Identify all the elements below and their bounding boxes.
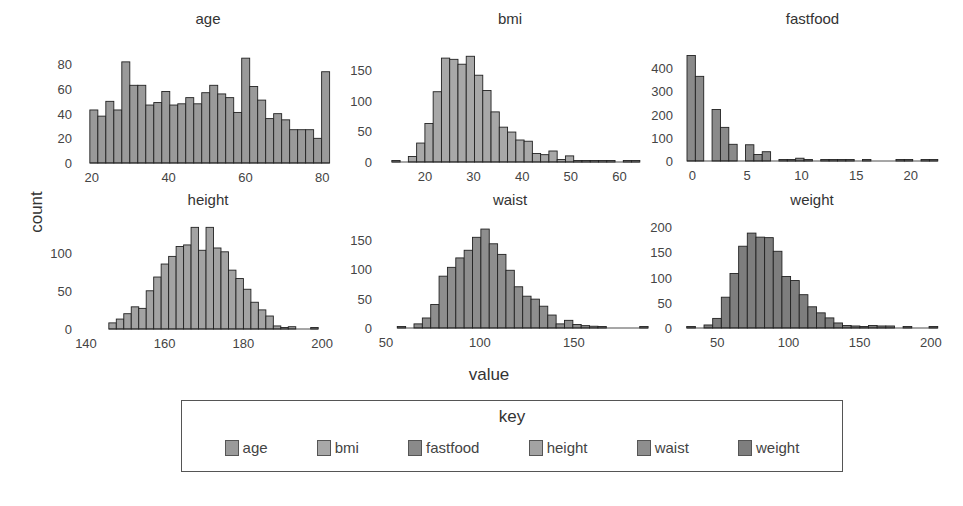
histogram-bar xyxy=(549,151,557,162)
histogram-bar xyxy=(226,98,234,163)
y-tick-label: 100 xyxy=(651,131,673,146)
histogram-bar xyxy=(146,105,154,163)
histogram-bar xyxy=(250,87,258,163)
panel-waist: waist05010015050100150 xyxy=(350,191,648,350)
histogram-bar xyxy=(154,103,162,163)
panel-title: bmi xyxy=(498,10,522,27)
histogram-bar xyxy=(746,145,754,161)
histogram-bar xyxy=(799,295,808,328)
histogram-bar xyxy=(202,93,210,163)
legend-item-height: height xyxy=(529,439,588,456)
histogram-bar xyxy=(483,91,491,163)
panel-title: waist xyxy=(492,191,528,208)
histogram-bar xyxy=(266,316,273,329)
histogram-bar xyxy=(713,318,722,328)
x-tick-label: 40 xyxy=(515,169,529,184)
histogram-bar xyxy=(782,277,791,328)
histogram-bar xyxy=(199,250,206,329)
panel-weight: weight05010015020050100150200 xyxy=(650,191,941,350)
x-axis-label: value xyxy=(469,365,510,384)
x-tick-label: 50 xyxy=(564,169,578,184)
histogram-bar xyxy=(130,85,138,163)
x-tick-label: 20 xyxy=(418,169,432,184)
histogram-bar xyxy=(466,56,474,162)
histogram-bar xyxy=(90,110,98,163)
panel-title: fastfood xyxy=(786,10,839,27)
x-tick-label: 10 xyxy=(794,168,808,183)
y-tick-label: 200 xyxy=(651,108,673,123)
x-tick-label: 0 xyxy=(689,168,696,183)
histogram-bar xyxy=(194,104,202,163)
histogram-bar xyxy=(565,156,573,162)
histogram-bar xyxy=(441,58,449,162)
histogram-bar xyxy=(834,323,843,328)
x-tick-label: 160 xyxy=(154,336,176,351)
legend-item-weight: weight xyxy=(738,439,799,456)
histogram-bar xyxy=(306,130,314,163)
histogram-bar xyxy=(762,152,770,161)
y-tick-label: 100 xyxy=(350,262,372,277)
legend: key age bmi fastfood height waist weight xyxy=(181,400,843,472)
histogram-bar xyxy=(243,289,250,329)
legend-title: key xyxy=(182,407,842,427)
x-tick-label: 80 xyxy=(315,170,329,185)
histogram-bar xyxy=(721,297,730,328)
x-tick-label: 60 xyxy=(238,170,252,185)
histogram-bar xyxy=(162,91,170,163)
histogram-bar xyxy=(808,307,817,328)
legend-swatch-height xyxy=(529,440,543,456)
histogram-bar xyxy=(98,116,106,163)
panel-bmi: bmi0501001502030405060 xyxy=(350,10,640,184)
histogram-bar xyxy=(516,140,524,162)
panel-title: height xyxy=(188,191,230,208)
x-tick-label: 60 xyxy=(612,169,626,184)
histogram-bar xyxy=(273,326,280,329)
x-tick-label: 15 xyxy=(849,168,863,183)
histogram-bar xyxy=(524,141,532,162)
histogram-bar xyxy=(322,72,330,163)
legend-items: age bmi fastfood height waist weight xyxy=(182,439,842,456)
legend-label: height xyxy=(547,439,588,456)
histogram-bar xyxy=(266,119,274,163)
histogram-bar xyxy=(720,127,728,161)
legend-item-waist: waist xyxy=(637,439,689,456)
legend-swatch-weight xyxy=(738,440,752,456)
y-tick-label: 0 xyxy=(666,154,673,169)
histogram-bar xyxy=(191,227,198,329)
histogram-bar xyxy=(475,75,483,162)
x-tick-label: 200 xyxy=(920,335,942,350)
histogram-bar xyxy=(139,308,146,329)
x-tick-label: 50 xyxy=(710,335,724,350)
x-tick-label: 5 xyxy=(743,168,750,183)
x-tick-label: 100 xyxy=(469,335,491,350)
x-tick-label: 50 xyxy=(379,335,393,350)
histogram-bar xyxy=(274,114,282,163)
histogram-bar xyxy=(531,299,539,328)
histogram-bar xyxy=(508,132,516,162)
histogram-bar xyxy=(414,324,422,328)
histogram-bar xyxy=(124,314,131,329)
histogram-bar xyxy=(425,124,433,163)
legend-item-fastfood: fastfood xyxy=(408,439,479,456)
histogram-bar xyxy=(206,227,213,329)
y-tick-label: 20 xyxy=(58,131,72,146)
histogram-bar xyxy=(456,258,464,328)
x-tick-label: 150 xyxy=(563,335,585,350)
histogram-bar xyxy=(106,101,114,163)
histogram-bar xyxy=(154,277,161,329)
y-tick-label: 0 xyxy=(365,155,372,170)
histogram-bar xyxy=(236,279,243,329)
y-tick-label: 150 xyxy=(650,245,672,260)
histogram-bar xyxy=(712,110,720,161)
y-tick-label: 0 xyxy=(65,322,72,337)
legend-label: fastfood xyxy=(426,439,479,456)
x-tick-label: 200 xyxy=(311,336,333,351)
legend-label: bmi xyxy=(335,439,359,456)
histogram-bar xyxy=(417,143,425,162)
histogram-bar xyxy=(514,287,522,328)
histogram-bar xyxy=(258,100,266,163)
histogram-bar xyxy=(439,276,447,328)
y-tick-label: 150 xyxy=(350,233,372,248)
x-tick-label: 180 xyxy=(233,336,255,351)
y-tick-label: 0 xyxy=(65,156,72,171)
